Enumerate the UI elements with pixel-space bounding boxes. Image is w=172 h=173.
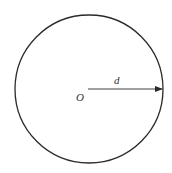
circle-diagram: d O: [0, 0, 172, 173]
radius-label: d: [114, 74, 120, 86]
center-label: O: [76, 91, 84, 103]
